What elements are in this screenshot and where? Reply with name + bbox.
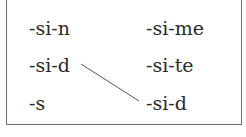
- connection-line: [0, 0, 246, 137]
